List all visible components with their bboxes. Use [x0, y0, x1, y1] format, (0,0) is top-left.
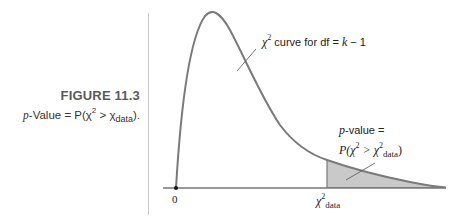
chi-square-diagram: [0, 0, 466, 223]
chi-data-label: χ2data: [316, 192, 340, 210]
origin-label: 0: [172, 193, 178, 205]
pvalue-label: p-value = P(χ2 > χ2data): [339, 123, 402, 162]
pvalue-shaded-region: [327, 160, 446, 188]
curve-label-leader: [237, 49, 256, 71]
origin-point: [174, 186, 178, 190]
pvalue-label-line2: P(χ2 > χ2data): [339, 138, 402, 162]
curve-label: χ2 curve for df = k − 1: [262, 33, 366, 50]
pvalue-label-line1: p-value =: [339, 123, 402, 138]
